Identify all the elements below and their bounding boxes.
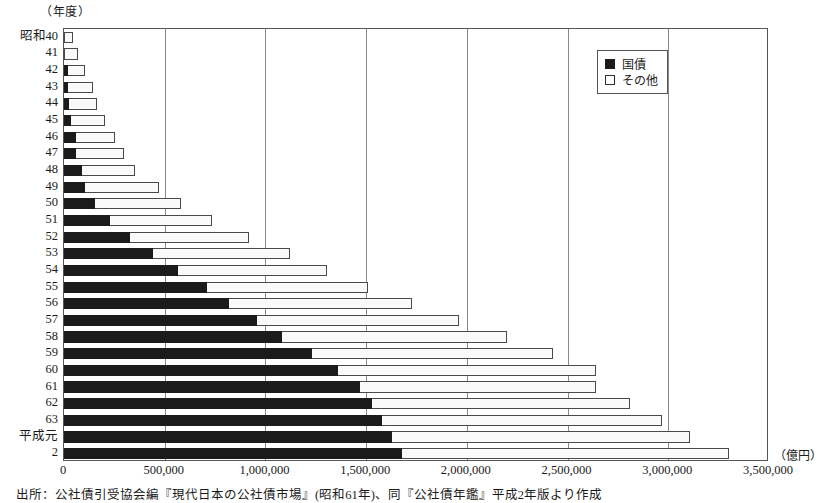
y-axis-tick-label: 昭和40	[0, 30, 58, 43]
y-axis-tick-label: 平成元	[0, 430, 58, 443]
x-axis-tick-label: 2,000,000	[441, 464, 491, 477]
bar-segment-kokusai	[64, 365, 338, 376]
bar-segment-kokusai	[64, 381, 360, 392]
bar-row	[64, 65, 85, 76]
bar-segment-sonota	[257, 315, 458, 326]
bar-segment-sonota	[207, 282, 368, 293]
bar-row	[64, 415, 662, 426]
bar-row	[64, 182, 159, 193]
y-axis-tick-label: 54	[0, 263, 58, 276]
bar-segment-sonota	[71, 115, 105, 126]
x-axis-tick-label: 0	[60, 464, 66, 477]
y-axis-tick-label: 48	[0, 163, 58, 176]
y-axis-tick-label: 46	[0, 130, 58, 143]
bar-segment-sonota	[360, 381, 596, 392]
bar-row	[64, 98, 97, 109]
y-axis-tick-label: 61	[0, 380, 58, 393]
y-axis-tick-label: 62	[0, 396, 58, 409]
y-axis-tick-label: 60	[0, 363, 58, 376]
bar-segment-sonota	[68, 82, 93, 93]
y-axis-tick-label: 45	[0, 113, 58, 126]
y-axis-tick-label: 58	[0, 330, 58, 343]
bar-row	[64, 315, 459, 326]
bar-segment-sonota	[76, 148, 124, 159]
bar-segment-sonota	[64, 48, 78, 59]
bar-segment-kokusai	[64, 348, 312, 359]
bar-segment-sonota	[338, 365, 596, 376]
bar-segment-kokusai	[64, 398, 372, 409]
bar-row	[64, 48, 78, 59]
bar-row	[64, 248, 290, 259]
y-axis-tick-label: 42	[0, 63, 58, 76]
x-axis-tick-label: 500,000	[143, 464, 184, 477]
bar-segment-kokusai	[64, 448, 402, 459]
bar-segment-kokusai	[64, 132, 76, 143]
bar-segment-kokusai	[64, 115, 71, 126]
bar-row	[64, 331, 507, 342]
x-axis-tick-label: 1,000,000	[239, 464, 289, 477]
bar-row	[64, 232, 249, 243]
bar-segment-sonota	[312, 348, 554, 359]
x-axis-tick-labels: 0500,0001,000,0001,500,0002,000,0002,500…	[0, 464, 824, 484]
y-axis-tick-label: 41	[0, 46, 58, 59]
bar-segment-sonota	[85, 182, 159, 193]
bar-row	[64, 348, 553, 359]
bar-segment-sonota	[69, 98, 97, 109]
legend-label-sonota: その他	[622, 71, 658, 89]
y-axis-tick-label: 2	[0, 446, 58, 459]
bar-row	[64, 165, 135, 176]
bar-row	[64, 298, 412, 309]
y-axis-tick-label: 59	[0, 346, 58, 359]
bar-row	[64, 265, 327, 276]
x-axis-tick-label: 1,500,000	[340, 464, 390, 477]
bar-segment-sonota	[110, 215, 213, 226]
y-axis-tick-label: 43	[0, 80, 58, 93]
x-axis-tick-label: 3,000,000	[642, 464, 692, 477]
bar-row	[64, 132, 115, 143]
legend-item-sonota: その他	[605, 72, 658, 88]
bar-segment-kokusai	[64, 315, 257, 326]
y-axis-unit-label: （年度）	[40, 2, 90, 20]
y-axis-tick-label: 63	[0, 413, 58, 426]
y-axis-tick-labels: 昭和40414243444546474849505152535455565758…	[0, 28, 60, 461]
bar-row	[64, 365, 596, 376]
bar-segment-kokusai	[64, 282, 207, 293]
y-axis-tick-label: 50	[0, 196, 58, 209]
bar-row	[64, 115, 105, 126]
bar-segment-kokusai	[64, 248, 153, 259]
y-axis-tick-label: 47	[0, 146, 58, 159]
bar-row	[64, 198, 181, 209]
bar-segment-kokusai	[64, 232, 130, 243]
open-square-icon	[605, 75, 615, 85]
bar-segment-sonota	[153, 248, 290, 259]
bar-segment-sonota	[95, 198, 181, 209]
bar-segment-sonota	[229, 298, 412, 309]
bar-segment-sonota	[64, 32, 73, 43]
bar-row	[64, 32, 73, 43]
bar-row	[64, 381, 596, 392]
bar-row	[64, 282, 368, 293]
bar-row	[64, 431, 690, 442]
bar-segment-sonota	[382, 415, 662, 426]
y-axis-tick-label: 55	[0, 280, 58, 293]
bar-segment-kokusai	[64, 182, 85, 193]
bar-segment-kokusai	[64, 165, 82, 176]
bar-segment-sonota	[392, 431, 690, 442]
y-axis-tick-label: 53	[0, 246, 58, 259]
y-axis-tick-label: 44	[0, 96, 58, 109]
x-axis-tick-label: 3,500,000	[743, 464, 793, 477]
source-caption: 出所：公社債引受協会編『現代日本の公社債市場』(昭和61年)、同『公社債年鑑』平…	[16, 484, 602, 503]
bar-segment-kokusai	[64, 431, 392, 442]
bar-segment-kokusai	[64, 331, 282, 342]
bar-segment-sonota	[178, 265, 327, 276]
y-axis-tick-label: 51	[0, 213, 58, 226]
x-axis-tick-label: 2,500,000	[542, 464, 592, 477]
bar-segment-sonota	[372, 398, 630, 409]
bar-segment-kokusai	[64, 265, 178, 276]
bar-segment-sonota	[82, 165, 136, 176]
bar-segment-sonota	[68, 65, 85, 76]
y-axis-tick-label: 52	[0, 230, 58, 243]
chart-legend: 国債 その他	[597, 50, 668, 94]
bar-segment-sonota	[402, 448, 728, 459]
